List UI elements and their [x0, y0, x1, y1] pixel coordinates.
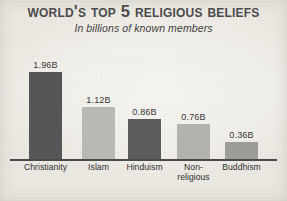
bar-rect — [82, 107, 115, 159]
x-axis-line — [10, 159, 277, 161]
bar-value-label: 0.36B — [229, 130, 254, 140]
bar-group: 1.96B — [29, 72, 62, 159]
category-label-buddhism: Buddhism — [213, 163, 270, 173]
bar-group: 0.76B — [177, 124, 210, 159]
bar-value-label: 0.76B — [181, 112, 206, 122]
plot-area: 1.96B 1.12B 0.86B 0.76B 0.36B Christiani… — [0, 0, 287, 201]
bar-value-label: 0.86B — [132, 107, 157, 117]
bar-rect — [225, 142, 258, 159]
bar-rect — [128, 119, 161, 159]
bar-group: 0.86B — [128, 119, 161, 159]
bar-group: 0.36B — [225, 142, 258, 159]
religion-bar-chart: World's Top 5 Religious Beliefs In billi… — [0, 0, 287, 201]
bar-value-label: 1.96B — [33, 60, 58, 70]
bar-value-label: 1.12B — [86, 95, 111, 105]
bar-rect — [29, 72, 62, 159]
bar-group: 1.12B — [82, 107, 115, 159]
bar-rect — [177, 124, 210, 159]
